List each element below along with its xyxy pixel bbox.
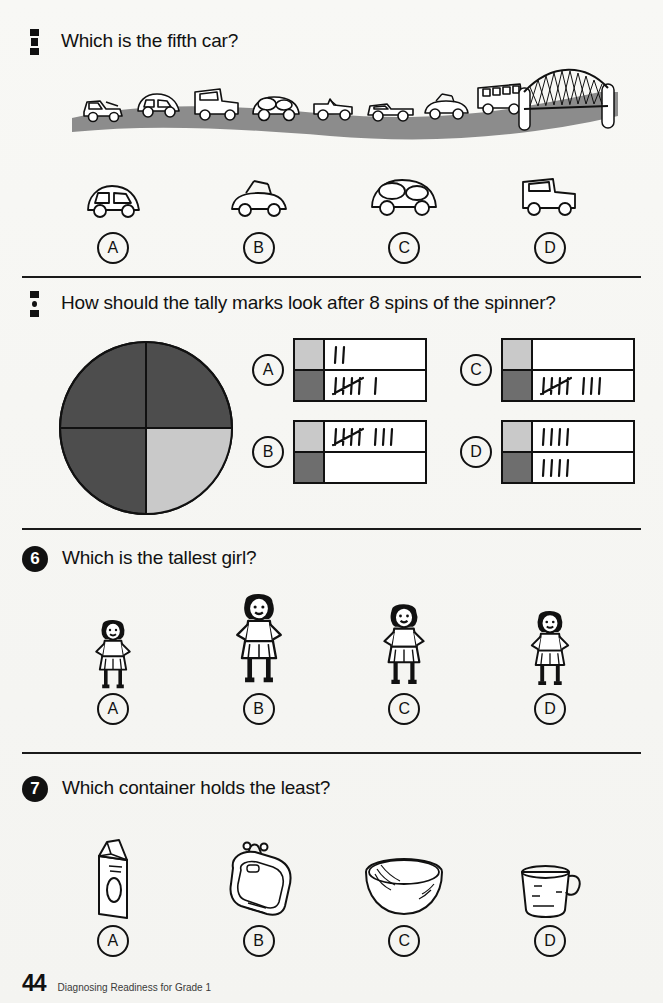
spinner-graphic bbox=[56, 338, 236, 522]
answer-option-a[interactable]: A bbox=[97, 693, 129, 725]
tally-box-c bbox=[501, 338, 635, 402]
spinner-light-quadrant bbox=[146, 428, 232, 514]
tally-row-light bbox=[503, 340, 633, 369]
tally-row-dark bbox=[503, 369, 633, 400]
tally-row-dark bbox=[503, 451, 633, 482]
worksheet-page: Which is the fifth car? bbox=[0, 0, 663, 1003]
footer-label: Diagnosing Readiness for Grade 1 bbox=[58, 982, 211, 993]
question-6-header: 6 Which is the tallest girl? bbox=[0, 545, 663, 572]
tally-option-b[interactable]: B bbox=[252, 420, 444, 484]
bowl-icon[interactable] bbox=[332, 856, 478, 920]
tally-row-dark bbox=[295, 369, 425, 400]
question-6-letters: A B C D bbox=[0, 693, 663, 725]
tally-marks-4 bbox=[533, 422, 633, 451]
swatch-light bbox=[503, 422, 533, 451]
swatch-dark bbox=[503, 371, 533, 400]
tally-row-light bbox=[295, 340, 425, 369]
choice-icon-c[interactable] bbox=[332, 174, 478, 220]
tally-row-dark bbox=[295, 451, 425, 482]
swatch-dark bbox=[503, 453, 533, 482]
tally-marks-2 bbox=[325, 340, 425, 369]
tally-marks-0 bbox=[325, 453, 425, 482]
question-4-header: Which is the fifth car? bbox=[0, 28, 663, 55]
vehicle-convertible bbox=[425, 94, 468, 119]
divider-after-question-4 bbox=[22, 276, 641, 278]
swatch-light bbox=[503, 340, 533, 369]
swatch-dark bbox=[295, 453, 325, 482]
divider-after-question-5 bbox=[22, 528, 641, 530]
question-7-letters: A B C D bbox=[0, 925, 663, 957]
question-4-number-badge bbox=[30, 29, 39, 55]
cars-on-road-scene bbox=[0, 66, 663, 161]
question-5-choices: A bbox=[252, 338, 652, 484]
question-4-letters: A B C D bbox=[0, 232, 663, 264]
girl-figure-d[interactable] bbox=[477, 606, 623, 690]
tally-row-light bbox=[295, 422, 425, 451]
question-7-prompt: Which container holds the least? bbox=[62, 775, 330, 801]
girl-figure-b[interactable] bbox=[186, 586, 332, 690]
swatch-dark bbox=[295, 371, 325, 400]
answer-option-a[interactable]: A bbox=[97, 232, 129, 264]
answer-option-b[interactable]: B bbox=[243, 925, 275, 957]
question-4-choice-icons bbox=[0, 170, 663, 220]
tally-box-d bbox=[501, 420, 635, 484]
question-6-prompt: Which is the tallest girl? bbox=[62, 545, 256, 571]
tally-marks-0 bbox=[533, 340, 633, 369]
question-5-prompt: How should the tally marks look after 8 … bbox=[61, 290, 556, 316]
question-7-choice-icons bbox=[0, 815, 663, 920]
question-5-number-badge bbox=[30, 291, 39, 317]
answer-option-c[interactable]: C bbox=[388, 232, 420, 264]
answer-option-d[interactable]: D bbox=[534, 232, 566, 264]
question-7: 7 Which container holds the least? bbox=[0, 775, 663, 802]
question-5-header: How should the tally marks look after 8 … bbox=[0, 290, 663, 317]
answer-option-b[interactable]: B bbox=[252, 436, 284, 468]
choice-icon-a[interactable] bbox=[40, 178, 186, 220]
girl-figure-a[interactable] bbox=[40, 618, 186, 690]
divider-after-question-6 bbox=[22, 752, 641, 754]
tally-option-d[interactable]: D bbox=[460, 420, 652, 484]
question-6: 6 Which is the tallest girl? bbox=[0, 545, 663, 572]
tally-row-light bbox=[503, 422, 633, 451]
answer-option-b[interactable]: B bbox=[243, 232, 275, 264]
question-5: How should the tally marks look after 8 … bbox=[0, 290, 663, 317]
answer-option-c[interactable]: C bbox=[388, 925, 420, 957]
question-4-prompt: Which is the fifth car? bbox=[61, 28, 238, 54]
swatch-light bbox=[295, 422, 325, 451]
page-number: 44 bbox=[22, 970, 46, 997]
question-6-choice-icons bbox=[0, 580, 663, 690]
tally-marks-4 bbox=[533, 453, 633, 482]
tally-option-c[interactable]: C bbox=[460, 338, 652, 402]
question-6-number-badge: 6 bbox=[22, 546, 48, 572]
answer-option-b[interactable]: B bbox=[243, 693, 275, 725]
answer-option-d[interactable]: D bbox=[534, 925, 566, 957]
answer-option-c[interactable]: C bbox=[388, 693, 420, 725]
tally-marks-8 bbox=[325, 422, 425, 451]
question-4: Which is the fifth car? bbox=[0, 28, 663, 55]
tally-box-a bbox=[293, 338, 427, 402]
tally-box-b bbox=[293, 420, 427, 484]
answer-option-d[interactable]: D bbox=[460, 436, 492, 468]
milk-carton-icon[interactable] bbox=[40, 834, 186, 920]
answer-option-a[interactable]: A bbox=[97, 925, 129, 957]
answer-option-c[interactable]: C bbox=[460, 354, 492, 386]
answer-option-a[interactable]: A bbox=[252, 354, 284, 386]
page-footer: 44 Diagnosing Readiness for Grade 1 bbox=[22, 970, 211, 997]
tally-marks-8 bbox=[533, 371, 633, 400]
vehicle-bus bbox=[478, 84, 524, 114]
choice-icon-b[interactable] bbox=[186, 178, 332, 220]
bathtub-icon[interactable] bbox=[186, 834, 332, 920]
swatch-light bbox=[295, 340, 325, 369]
measuring-cup-icon[interactable] bbox=[477, 862, 623, 920]
question-7-header: 7 Which container holds the least? bbox=[0, 775, 663, 802]
answer-option-d[interactable]: D bbox=[534, 693, 566, 725]
tally-option-a[interactable]: A bbox=[252, 338, 444, 402]
question-7-number-badge: 7 bbox=[22, 776, 48, 802]
choice-icon-d[interactable] bbox=[477, 174, 623, 220]
tally-marks-6 bbox=[325, 371, 425, 400]
girl-figure-c[interactable] bbox=[332, 598, 478, 690]
